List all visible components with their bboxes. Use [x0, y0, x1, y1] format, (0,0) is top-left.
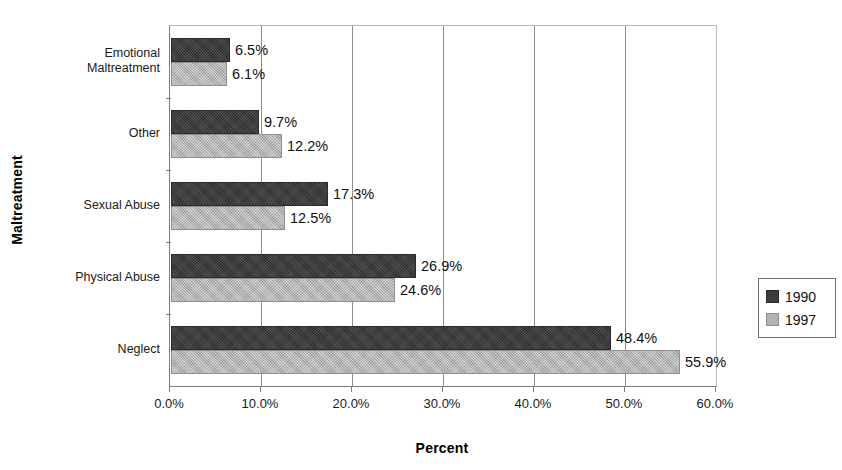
bar-1997-sexual-abuse [171, 206, 285, 230]
category-tick [166, 314, 171, 315]
bar-value-label: 12.5% [290, 211, 331, 226]
bar-1997-other [171, 134, 282, 158]
bar-1990-sexual-abuse [171, 182, 328, 206]
category-label: Maltreatment [36, 61, 160, 76]
legend-label: 1997 [785, 313, 816, 327]
x-axis-tick-mark [442, 386, 443, 392]
dark-swatch-icon [766, 290, 779, 303]
bar-1990-emotional-maltreatment [171, 38, 230, 62]
x-axis-tick-mark [351, 386, 352, 392]
x-axis-tick-label: 10.0% [225, 396, 295, 411]
x-axis-tick-label: 50.0% [589, 396, 659, 411]
plot-area: 6.5%6.1%9.7%12.2%17.3%12.5%26.9%24.6%48.… [169, 25, 717, 387]
y-axis-title: Maltreatment [2, 0, 32, 400]
x-axis-tick-mark [260, 386, 261, 392]
x-axis-tick-label: 60.0% [680, 396, 750, 411]
bar-value-label: 9.7% [264, 115, 297, 130]
bar-value-label: 6.1% [232, 67, 265, 82]
category-label: Sexual Abuse [36, 198, 160, 213]
bar-1990-other [171, 110, 259, 134]
x-axis-tick-label: 0.0% [134, 396, 204, 411]
category-tick [166, 98, 171, 99]
x-axis-tick-mark [715, 386, 716, 392]
light-swatch-icon [766, 313, 779, 326]
bar-chart: Maltreatment EmotionalMaltreatmentOtherS… [0, 0, 842, 470]
x-axis-tick-label: 30.0% [407, 396, 477, 411]
x-axis-tick-mark [169, 386, 170, 392]
x-axis-title-text: Percent [416, 440, 469, 456]
bar-value-label: 6.5% [235, 43, 268, 58]
x-axis-tick-mark [624, 386, 625, 392]
category-label: Emotional [36, 46, 160, 61]
bar-1997-neglect [171, 350, 680, 374]
bar-1990-physical-abuse [171, 254, 416, 278]
category-label: Neglect [36, 342, 160, 357]
bar-1997-physical-abuse [171, 278, 395, 302]
category-label: Other [36, 126, 160, 141]
y-axis-title-text: Maltreatment [9, 155, 25, 245]
bar-value-label: 48.4% [616, 331, 657, 346]
bar-value-label: 24.6% [400, 283, 441, 298]
bar-value-label: 26.9% [421, 259, 462, 274]
legend: 1990 1997 [758, 278, 836, 338]
bar-1997-emotional-maltreatment [171, 62, 227, 86]
legend-item-1997: 1997 [766, 308, 835, 331]
bar-value-label: 12.2% [287, 139, 328, 154]
bar-1990-neglect [171, 326, 611, 350]
category-tick [166, 170, 171, 171]
x-axis-title: Percent [169, 440, 715, 456]
category-tick [166, 242, 171, 243]
category-label-group: EmotionalMaltreatmentOtherSexual AbusePh… [36, 25, 164, 385]
x-axis-tick-label: 40.0% [498, 396, 568, 411]
category-label: Physical Abuse [36, 270, 160, 285]
x-axis-tick-mark [533, 386, 534, 392]
x-axis-tick-label: 20.0% [316, 396, 386, 411]
bar-value-label: 55.9% [685, 355, 726, 370]
legend-label: 1990 [785, 290, 816, 304]
legend-item-1990: 1990 [766, 285, 835, 308]
bar-value-label: 17.3% [333, 187, 374, 202]
